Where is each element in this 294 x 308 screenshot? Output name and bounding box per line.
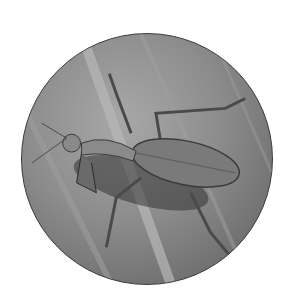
mantis-illustration xyxy=(22,34,272,284)
mantis-photo xyxy=(21,33,273,285)
